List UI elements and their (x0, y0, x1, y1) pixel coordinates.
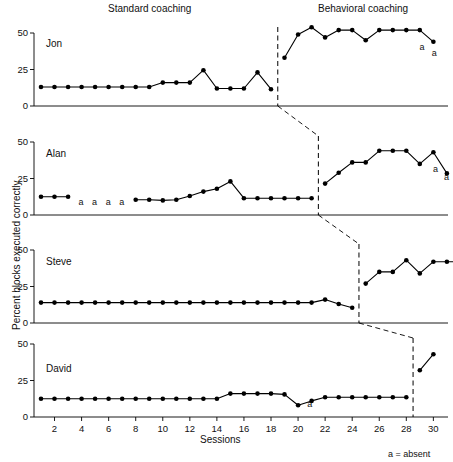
data-point (445, 259, 450, 264)
x-tick-label: 22 (315, 423, 335, 434)
data-point (66, 300, 71, 305)
y-tick-label: 50 (8, 136, 28, 147)
data-point (350, 305, 355, 310)
absent-mark: a (432, 48, 437, 58)
data-point (269, 196, 274, 201)
data-point (377, 395, 382, 400)
data-point (255, 391, 260, 396)
data-point (363, 38, 368, 43)
data-point (133, 197, 138, 202)
data-point (336, 395, 341, 400)
absent-mark: a (420, 42, 425, 52)
connector-steve-david (359, 323, 413, 338)
data-point (52, 85, 57, 90)
data-point (350, 160, 355, 165)
data-point (282, 300, 287, 305)
y-tick-label: 25 (8, 375, 28, 386)
data-point (269, 87, 274, 92)
y-tick-label: 25 (8, 64, 28, 75)
data-point (255, 196, 260, 201)
data-point (161, 80, 166, 85)
absent-mark: a (119, 197, 124, 207)
data-point (161, 198, 166, 203)
data-point (215, 397, 220, 402)
data-point (66, 397, 71, 402)
data-point (147, 85, 152, 90)
series-treatment-alan (325, 151, 433, 184)
absent-mark: a (307, 399, 312, 409)
data-point (174, 397, 179, 402)
data-point (52, 195, 57, 200)
data-point (391, 149, 396, 154)
absent-mark: a (444, 172, 449, 182)
data-point (309, 196, 314, 201)
data-point (106, 300, 111, 305)
data-point (39, 85, 44, 90)
data-point (431, 259, 436, 264)
data-point (66, 85, 71, 90)
data-point (242, 196, 247, 201)
data-point (282, 392, 287, 397)
data-point (133, 300, 138, 305)
data-point (350, 395, 355, 400)
x-tick-label: 4 (72, 423, 92, 434)
x-tick-label: 14 (207, 423, 227, 434)
data-point (431, 352, 436, 357)
data-point (296, 300, 301, 305)
x-tick-label: 10 (153, 423, 173, 434)
data-point (188, 194, 193, 199)
x-tick-label: 18 (261, 423, 281, 434)
data-point (201, 397, 206, 402)
data-point (363, 395, 368, 400)
x-tick-label: 16 (234, 423, 254, 434)
data-point (201, 300, 206, 305)
data-point (147, 300, 152, 305)
x-tick-label: 6 (99, 423, 119, 434)
chart-canvas (0, 0, 453, 462)
data-point (39, 195, 44, 200)
connector-jon-alan (278, 106, 319, 136)
data-point (215, 300, 220, 305)
data-point (120, 85, 125, 90)
data-point (363, 281, 368, 286)
data-point (323, 35, 328, 40)
data-point (404, 28, 409, 33)
data-point (323, 297, 328, 302)
data-point (418, 368, 423, 373)
data-point (106, 85, 111, 90)
data-point (228, 300, 233, 305)
data-point (391, 28, 396, 33)
data-point (242, 300, 247, 305)
data-point (391, 270, 396, 275)
data-point (431, 40, 436, 45)
data-point (93, 300, 98, 305)
data-point (323, 395, 328, 400)
data-point (309, 25, 314, 30)
data-point (39, 300, 44, 305)
absent-mark: a (106, 197, 111, 207)
data-point (147, 397, 152, 402)
x-tick-label: 2 (45, 423, 65, 434)
data-point (323, 181, 328, 186)
series-baseline-steve (41, 300, 352, 308)
data-point (120, 397, 125, 402)
x-tick-label: 20 (288, 423, 308, 434)
x-tick-label: 24 (342, 423, 362, 434)
y-tick-label: 0 (8, 100, 28, 111)
absent-mark: a (433, 164, 438, 174)
data-point (52, 300, 57, 305)
data-point (120, 300, 125, 305)
data-point (418, 28, 423, 33)
data-point (66, 195, 71, 200)
data-point (188, 80, 193, 85)
x-tick-label: 8 (126, 423, 146, 434)
absent-mark: a (92, 197, 97, 207)
data-point (228, 391, 233, 396)
data-point (269, 300, 274, 305)
data-point (363, 160, 368, 165)
data-point (242, 86, 247, 91)
series-treatment-david (420, 354, 434, 370)
data-point (147, 197, 152, 202)
data-point (418, 271, 423, 276)
data-point (39, 397, 44, 402)
